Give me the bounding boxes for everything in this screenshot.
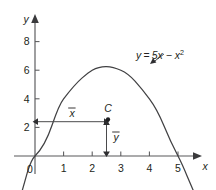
y-tick-label-8: 8 (24, 35, 30, 47)
parabola-centroid-figure: 2 4 6 8 0 1 2 3 4 5 y x y=5x − x2 C x y (0, 0, 216, 190)
x-tick-label-2: 2 (89, 162, 95, 174)
x-bar-letter: x (68, 107, 75, 119)
plot-canvas: 2 4 6 8 0 1 2 3 4 5 y x y=5x − x2 C x y (0, 0, 216, 190)
equation-exponent: 2 (180, 48, 184, 57)
x-tick-label-3: 3 (118, 162, 124, 174)
y-axis-label: y (22, 13, 29, 25)
x-tick-label-4: 4 (146, 162, 152, 174)
y-tick-label-2: 2 (24, 121, 30, 133)
parabola-curve (22, 67, 193, 190)
centroid-point-marker (106, 117, 110, 121)
equation-lhs: y (135, 49, 142, 61)
equation-rhs: 5x − x (152, 49, 181, 61)
svg-text:y=5x − x2: y=5x − x2 (135, 48, 184, 61)
x-tick-label-1: 1 (61, 162, 67, 174)
origin-label: 0 (27, 163, 33, 175)
y-bar-label: y (112, 131, 119, 143)
y-axis-arrowhead (31, 14, 39, 23)
y-tick-label-6: 6 (24, 64, 30, 76)
y-bar-letter: y (112, 131, 119, 143)
x-axis-arrowhead (193, 152, 202, 160)
centroid-label: C (104, 102, 112, 114)
x-tick-label-5: 5 (175, 162, 181, 174)
y-tick-label-4: 4 (24, 93, 30, 105)
equation-equals: = (143, 49, 149, 61)
curve-equation-label: y=5x − x2 (135, 48, 184, 61)
x-bar-label: x (68, 107, 75, 119)
x-axis-label: x (201, 160, 208, 172)
